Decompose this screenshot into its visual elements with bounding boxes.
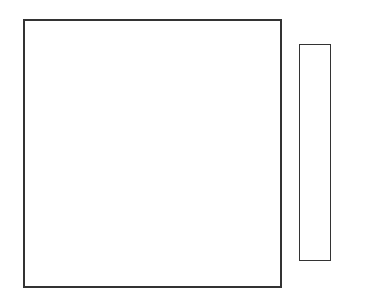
heatmap-grid	[25, 21, 280, 286]
colorbar	[299, 44, 331, 261]
heatmap-plot-area	[23, 19, 282, 288]
